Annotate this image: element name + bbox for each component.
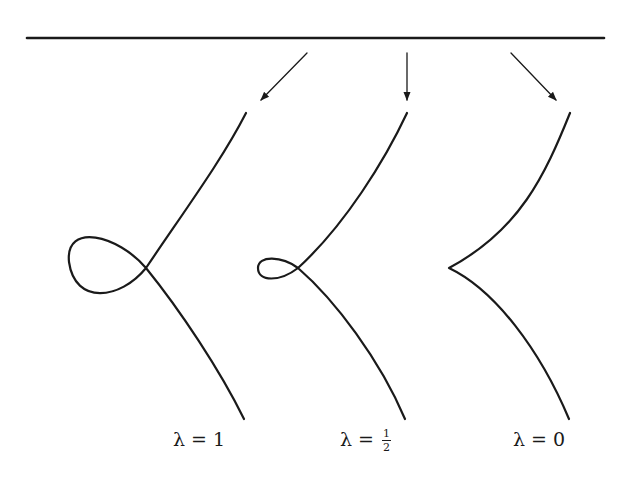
loop-curve bbox=[69, 113, 246, 419]
label-lambda-0: λ = 0 bbox=[513, 430, 565, 449]
arrow-right bbox=[511, 53, 556, 100]
label-lambda-1: λ = 1 bbox=[173, 430, 225, 449]
equals-sign: = bbox=[358, 428, 374, 450]
lambda-value: 0 bbox=[553, 428, 565, 450]
equals-sign: = bbox=[531, 428, 547, 450]
fraction-numerator: 1 bbox=[382, 428, 391, 441]
label-lambda-half: λ = 1 2 bbox=[340, 428, 391, 453]
curve-deformation-diagram bbox=[0, 0, 625, 480]
lambda-symbol: λ bbox=[340, 428, 352, 450]
lambda-symbol: λ bbox=[513, 428, 525, 450]
arrow-left bbox=[261, 53, 307, 100]
small-loop-curve bbox=[258, 113, 407, 419]
lambda-symbol: λ bbox=[173, 428, 185, 450]
equals-sign: = bbox=[191, 428, 207, 450]
fraction-denominator: 2 bbox=[382, 441, 391, 453]
cusp-curve bbox=[449, 113, 570, 419]
fraction-one-half: 1 2 bbox=[382, 428, 391, 453]
lambda-value: 1 bbox=[213, 428, 225, 450]
